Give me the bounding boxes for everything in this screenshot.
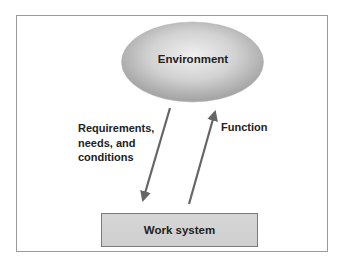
- requirements-label-line-1: Requirements,: [78, 121, 168, 136]
- work-system-node: Work system: [101, 213, 258, 247]
- environment-label: Environment: [122, 53, 264, 65]
- function-arrow: [189, 112, 215, 204]
- requirements-label-line-3: conditions: [78, 150, 168, 165]
- function-label: Function: [221, 121, 267, 133]
- work-system-label: Work system: [144, 224, 215, 236]
- requirements-label-line-2: needs, and: [78, 136, 168, 151]
- requirements-label: Requirements, needs, and conditions: [78, 121, 168, 165]
